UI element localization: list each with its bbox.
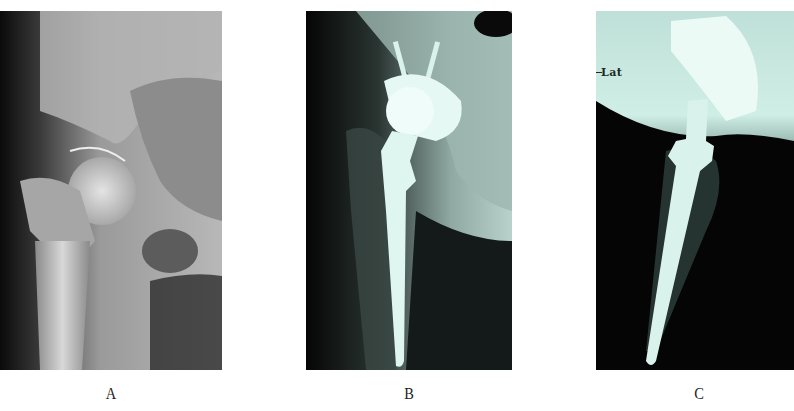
xray-image-preop-hip: [0, 11, 222, 370]
xray-image-postop-ap: [306, 11, 512, 370]
xray-panel-c: [596, 11, 794, 370]
xray-panel-b: [306, 11, 512, 370]
panel-label-c: C: [686, 384, 712, 404]
xray-panel-a: [0, 11, 222, 370]
panel-label-a: A: [98, 384, 124, 404]
xray-image-postop-lateral: [596, 11, 794, 370]
panel-label-b: B: [396, 384, 422, 404]
lateral-view-marker: Lat: [601, 66, 622, 79]
